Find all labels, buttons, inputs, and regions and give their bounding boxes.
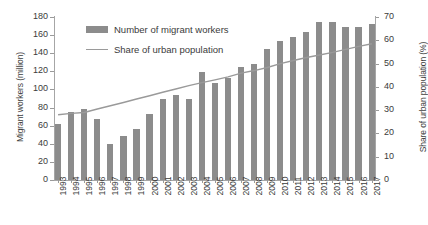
x-axis-label: 2000 [146, 183, 152, 225]
x-axis-label-text: 2004 [202, 177, 212, 196]
x-axis-label-text: 1999 [136, 177, 146, 196]
x-axis-label-text: 2016 [359, 177, 369, 196]
y-axis-left-tick: 180 [26, 12, 48, 21]
x-axis-label-text: 2007 [241, 177, 251, 196]
x-axis-label-text: 2010 [280, 177, 290, 196]
axis-line-right [375, 16, 376, 181]
x-axis-label-text: 1998 [123, 177, 133, 196]
x-axis-labels: 1993199419951996199719981999200020012002… [55, 183, 375, 225]
y-axis-left-tick: 60 [26, 121, 48, 130]
x-axis-label: 2001 [160, 183, 166, 225]
x-axis-label-text: 1995 [84, 177, 94, 196]
x-axis-label-text: 2005 [215, 177, 225, 196]
x-axis-label: 2007 [238, 183, 244, 225]
x-axis-label: 2008 [251, 183, 257, 225]
x-axis-label-text: 2000 [150, 177, 160, 196]
y-axis-right-tick: 40 [384, 82, 406, 91]
x-axis-label: 1993 [55, 183, 61, 225]
x-axis-label: 2012 [303, 183, 309, 225]
x-axis-label: 2010 [277, 183, 283, 225]
x-axis-label: 1997 [107, 183, 113, 225]
x-axis-label: 2015 [342, 183, 348, 225]
x-axis-label-text: 2012 [306, 177, 316, 196]
y-axis-right-tick: 10 [384, 152, 406, 161]
y-axis-left-tick: 100 [26, 84, 48, 93]
x-axis-label-text: 2001 [163, 177, 173, 196]
y-axis-right-tick: 50 [384, 59, 406, 68]
y-axis-left-tick: 140 [26, 48, 48, 57]
x-axis-label-text: 2008 [254, 177, 264, 196]
x-axis-label: 1999 [133, 183, 139, 225]
x-axis-label: 2011 [290, 183, 296, 225]
y-axis-right-tick: 60 [384, 35, 406, 44]
x-axis-label: 2009 [264, 183, 270, 225]
y-axis-right-tick: 20 [384, 128, 406, 137]
x-axis-label: 2005 [212, 183, 218, 225]
x-axis-label: 1998 [120, 183, 126, 225]
y-axis-right-title: Share of urban population (%) [418, 29, 428, 165]
x-axis-label: 2004 [199, 183, 205, 225]
x-axis-label-text: 2002 [176, 177, 186, 196]
x-axis-label: 2017 [369, 183, 375, 225]
x-axis-label-text: 2015 [345, 177, 355, 196]
x-axis-label: 1994 [68, 183, 74, 225]
y-axis-left-tick: 160 [26, 30, 48, 39]
legend-label-line: Share of urban population [114, 44, 223, 55]
x-axis-label: 2002 [173, 183, 179, 225]
y-axis-left-tick: 120 [26, 66, 48, 75]
x-axis-label: 2016 [355, 183, 361, 225]
y-axis-left-tick: 40 [26, 139, 48, 148]
x-axis-label-text: 1996 [97, 177, 107, 196]
legend-line-swatch-icon [86, 49, 108, 50]
x-axis-label-text: 2013 [319, 177, 329, 196]
x-axis-label-text: 2009 [267, 177, 277, 196]
y-axis-left: 020406080100120140160180 [24, 0, 48, 225]
x-axis-label: 2014 [329, 183, 335, 225]
x-axis-label-text: 2006 [228, 177, 238, 196]
y-axis-left-tick: 80 [26, 103, 48, 112]
x-axis-label-text: 2017 [372, 177, 382, 196]
x-axis-label-text: 1997 [110, 177, 120, 196]
x-axis-label-text: 1993 [58, 177, 68, 196]
legend-bar-swatch-icon [86, 26, 108, 33]
y-axis-left-tick: 20 [26, 157, 48, 166]
x-axis-label-text: 1994 [71, 177, 81, 196]
x-axis-label: 1996 [94, 183, 100, 225]
legend-item-bars: Number of migrant workers [86, 24, 229, 35]
x-axis-label-text: 2011 [293, 177, 303, 195]
x-axis-label: 2003 [186, 183, 192, 225]
y-axis-right-tick: 0 [384, 175, 406, 184]
y-axis-right-tick: 70 [384, 12, 406, 21]
x-axis-label-text: 2003 [189, 177, 199, 196]
y-axis-left-tick: 0 [26, 175, 48, 184]
x-axis-label: 2013 [316, 183, 322, 225]
x-axis-label: 1995 [81, 183, 87, 225]
x-axis-label-text: 2014 [332, 177, 342, 196]
y-axis-right-tick: 30 [384, 105, 406, 114]
legend-label-bars: Number of migrant workers [114, 24, 229, 35]
chart-legend: Number of migrant workers Share of urban… [86, 24, 229, 64]
legend-item-line: Share of urban population [86, 44, 229, 55]
x-axis-label: 2006 [225, 183, 231, 225]
